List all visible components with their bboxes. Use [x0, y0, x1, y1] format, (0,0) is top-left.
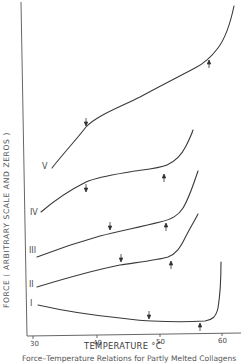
arrow-up-icon	[162, 174, 165, 182]
x-axis-line	[27, 333, 241, 336]
arrow-down-icon	[84, 184, 87, 192]
curve-v-line	[52, 6, 234, 168]
curve-label-v: V	[42, 162, 48, 171]
curve-i-line	[38, 262, 221, 322]
curve-iii: III	[29, 171, 198, 257]
arrow-up-icon	[164, 223, 167, 231]
arrow-down-icon	[147, 311, 150, 319]
arrow-down-icon	[108, 222, 111, 230]
y-axis-label-container: FORCE ( ARBITRARY SCALE AND ZEROS )	[2, 8, 16, 308]
curve-label-i: I	[30, 299, 32, 308]
arrow-up-icon	[169, 261, 172, 269]
chart-axes	[21, 2, 241, 339]
curve-ii: II	[29, 214, 198, 289]
chart-figure: 30 40 50 60 V IV III II I	[0, 0, 246, 364]
arrow-down-icon	[84, 118, 87, 126]
curve-iv-line	[41, 130, 193, 212]
y-axis-label: FORCE ( ARBITRARY SCALE AND ZEROS )	[2, 132, 11, 308]
y-axis-line	[21, 2, 27, 336]
curve-i: I	[30, 262, 221, 331]
curve-iii-line	[37, 171, 198, 257]
curve-iv: IV	[30, 130, 193, 217]
curve-v: V	[42, 6, 234, 171]
curve-label-ii: II	[29, 280, 34, 289]
arrow-down-icon	[119, 254, 122, 262]
arrow-up-icon	[207, 60, 210, 68]
curve-label-iv: IV	[30, 208, 38, 217]
curve-label-iii: III	[29, 246, 36, 255]
arrow-up-icon	[198, 323, 201, 331]
x-axis-label: TEMPERATURE °C	[0, 341, 246, 351]
figure-caption: Force–Temperature Relations for Partly M…	[22, 354, 246, 363]
curve-ii-line	[37, 214, 198, 287]
